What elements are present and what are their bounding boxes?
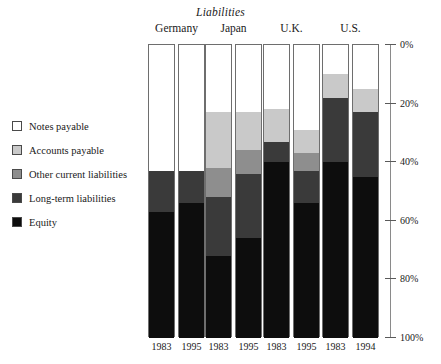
y-axis-tick-label: 40% xyxy=(400,156,418,167)
bar-us-1994 xyxy=(352,44,379,337)
y-axis-tick xyxy=(385,220,396,221)
legend-swatch-icon xyxy=(12,121,22,131)
legend-item-accounts-payable: Accounts payable xyxy=(12,138,127,162)
bar-segment-long-term-liabilities xyxy=(294,171,319,203)
bar-segment-equity xyxy=(353,177,378,338)
bar-us-1983 xyxy=(322,44,349,337)
legend-item-equity: Equity xyxy=(12,210,127,234)
y-axis-tick-label: 60% xyxy=(400,214,418,225)
bar-segment-long-term-liabilities xyxy=(264,142,289,163)
legend-item-label: Other current liabilities xyxy=(29,169,127,180)
bar-uk-1983 xyxy=(263,44,290,337)
legend-item-label: Notes payable xyxy=(29,121,89,132)
bar-segment-other-current-liabilities xyxy=(236,150,261,173)
legend-item-other-current-liabilities: Other current liabilities xyxy=(12,162,127,186)
bar-segment-notes-payable xyxy=(323,45,348,74)
bar-segment-long-term-liabilities xyxy=(236,174,261,238)
bar-segment-long-term-liabilities xyxy=(179,171,204,203)
legend-swatch-icon xyxy=(12,217,22,227)
bar-segment-long-term-liabilities xyxy=(353,112,378,176)
legend-swatch-icon xyxy=(12,145,22,155)
x-axis-year-label: 1994 xyxy=(346,341,386,352)
bar-segment-long-term-liabilities xyxy=(323,98,348,162)
bar-segment-equity xyxy=(323,162,348,338)
y-axis-tick xyxy=(385,103,396,104)
bar-segment-long-term-liabilities xyxy=(149,171,174,212)
bar-segment-other-current-liabilities xyxy=(294,153,319,171)
bar-japan-1995 xyxy=(235,44,262,337)
legend-swatch-icon xyxy=(12,193,22,203)
bar-segment-accounts-payable xyxy=(294,130,319,153)
bar-segment-equity xyxy=(264,162,289,338)
bar-segment-equity xyxy=(206,256,231,338)
y-axis-tick xyxy=(385,161,396,162)
bar-segment-notes-payable xyxy=(236,45,261,112)
y-axis-tick-label: 80% xyxy=(400,273,418,284)
legend-item-label: Accounts payable xyxy=(29,145,104,156)
bar-germany-1983 xyxy=(148,44,175,337)
y-axis-tick xyxy=(385,44,396,45)
legend-item-notes-payable: Notes payable xyxy=(12,114,127,138)
bar-uk-1995 xyxy=(293,44,320,337)
bar-segment-equity xyxy=(179,203,204,338)
y-axis-tick xyxy=(385,337,396,338)
bar-segment-notes-payable xyxy=(264,45,289,109)
bar-segment-notes-payable xyxy=(206,45,231,112)
bar-segment-equity xyxy=(149,212,174,338)
bar-segment-accounts-payable xyxy=(206,112,231,168)
legend-swatch-icon xyxy=(12,169,22,179)
bar-segment-accounts-payable xyxy=(236,112,261,150)
bar-segment-notes-payable xyxy=(294,45,319,130)
legend-item-label: Long-term liabilities xyxy=(29,193,116,204)
bar-segment-equity xyxy=(236,238,261,338)
y-axis-line xyxy=(390,44,391,337)
legend-item-label: Equity xyxy=(29,217,57,228)
liabilities-stacked-bar-chart: Liabilities GermanyJapanU.K.U.S. 1983199… xyxy=(0,0,441,364)
bar-segment-notes-payable xyxy=(179,45,204,171)
chart-legend: Notes payableAccounts payableOther curre… xyxy=(12,114,127,234)
legend-item-long-term-liabilities: Long-term liabilities xyxy=(12,186,127,210)
y-axis-tick-label: 100% xyxy=(400,332,423,343)
bar-segment-notes-payable xyxy=(149,45,174,171)
bar-segment-accounts-payable xyxy=(353,89,378,112)
bar-segment-other-current-liabilities xyxy=(206,168,231,197)
y-axis-tick xyxy=(385,278,396,279)
bar-germany-1995 xyxy=(178,44,205,337)
y-axis-tick-label: 0% xyxy=(400,39,413,50)
bar-segment-accounts-payable xyxy=(264,109,289,141)
y-axis-tick-label: 20% xyxy=(400,97,418,108)
bar-segment-long-term-liabilities xyxy=(206,197,231,256)
bar-japan-1983 xyxy=(205,44,232,337)
bar-segment-accounts-payable xyxy=(323,74,348,97)
bar-segment-notes-payable xyxy=(353,45,378,89)
bar-segment-equity xyxy=(294,203,319,338)
